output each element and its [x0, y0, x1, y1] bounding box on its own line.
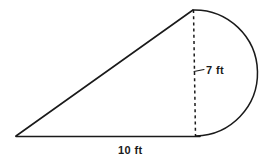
- figure-background: [0, 0, 266, 166]
- geometry-figure: 7 ft 10 ft: [0, 0, 266, 166]
- base-dimension-label: 10 ft: [118, 144, 143, 156]
- height-dimension-label: 7 ft: [206, 64, 224, 76]
- figure-drawing: [0, 0, 266, 166]
